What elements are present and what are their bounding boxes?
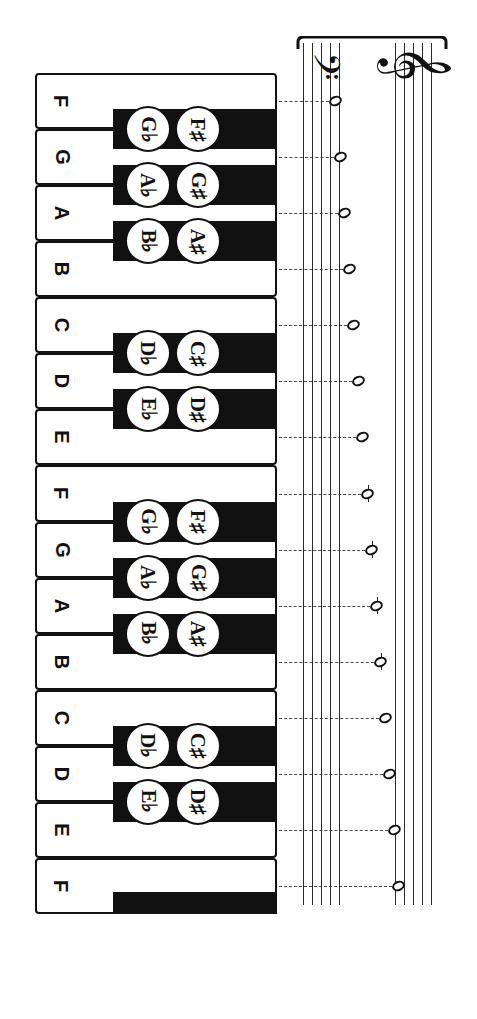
- white-key-label: A: [52, 206, 72, 220]
- enharmonic-bubble-sharp[interactable]: G♯: [175, 162, 221, 208]
- white-key-label: A: [52, 598, 72, 612]
- bass-clef-icon: 𝄢: [300, 52, 344, 96]
- treble-staff-line-2: [404, 43, 405, 905]
- whole-note-head: [364, 542, 380, 556]
- enharmonic-bubble-sharp[interactable]: F♯: [175, 499, 221, 545]
- note-a-bass: [338, 208, 351, 218]
- enharmonic-label: D♭: [137, 341, 158, 366]
- enharmonic-label: A♭: [137, 173, 158, 198]
- enharmonic-label: F♯: [187, 510, 208, 533]
- whole-note-head: [332, 150, 348, 164]
- enharmonic-bubble-flat[interactable]: E♭: [125, 779, 171, 825]
- whole-note-head: [377, 711, 393, 725]
- note-d-treble: [383, 769, 396, 779]
- enharmonic-bubble-flat[interactable]: B♭: [125, 611, 171, 657]
- enharmonic-label: F♯: [187, 117, 208, 140]
- whole-note-head: [350, 374, 366, 388]
- enharmonic-bubble-sharp[interactable]: A♯: [175, 218, 221, 264]
- treble-staff-line-5: [431, 43, 432, 905]
- white-key-label: G: [53, 149, 73, 165]
- whole-note-head: [373, 655, 389, 669]
- bass-staff-line-4: [330, 43, 331, 905]
- enharmonic-bubble-sharp[interactable]: F♯: [175, 106, 221, 152]
- bass-staff-line-3: [321, 43, 322, 905]
- enharmonic-label: A♭: [137, 565, 158, 590]
- note-b-treble: [374, 657, 387, 667]
- white-key-label: B: [52, 262, 72, 276]
- bass-staff-line-2: [312, 43, 313, 905]
- note-d-bass: [352, 376, 365, 386]
- enharmonic-bubble-sharp[interactable]: C♯: [175, 723, 221, 769]
- note-f-treble: [392, 881, 405, 891]
- enharmonic-label: C♯: [187, 733, 208, 759]
- white-key-label: C: [52, 318, 72, 332]
- grand-staff: [296, 43, 448, 905]
- enharmonic-label: D♭: [137, 733, 158, 758]
- whole-note-head: [337, 206, 353, 220]
- treble-staff-line-3: [413, 43, 414, 905]
- whole-note-head: [328, 94, 344, 108]
- whole-note-head: [391, 879, 407, 893]
- whole-note-head: [355, 430, 371, 444]
- white-key-label: F: [51, 880, 71, 892]
- white-key-label: B: [52, 654, 72, 668]
- enharmonic-label: G♯: [188, 564, 209, 591]
- enharmonic-label: C♯: [187, 340, 208, 366]
- bass-clef-glyph: 𝄢: [300, 52, 344, 96]
- treble-clef-glyph: 𝄞: [385, 45, 447, 105]
- enharmonic-label: G♭: [138, 508, 159, 534]
- whole-note-head: [341, 262, 357, 276]
- black-key-partial-bottom: [113, 892, 277, 914]
- enharmonic-label: E♭: [137, 397, 158, 421]
- treble-clef-icon: 𝄞: [386, 44, 446, 104]
- enharmonic-bubble-flat[interactable]: A♭: [125, 555, 171, 601]
- enharmonic-bubble-flat[interactable]: B♭: [125, 218, 171, 264]
- bass-staff-line-1: [303, 43, 304, 905]
- bass-staff-line-5: [339, 43, 340, 905]
- treble-staff-line-4: [422, 43, 423, 905]
- whole-note-head: [359, 486, 375, 500]
- enharmonic-label: D♯: [187, 397, 208, 423]
- white-key-label: E: [52, 823, 72, 836]
- white-key-label: D: [52, 374, 72, 388]
- enharmonic-bubble-flat[interactable]: G♭: [125, 499, 171, 545]
- note-c-treble: [379, 713, 392, 723]
- white-key-label: G: [53, 542, 73, 558]
- enharmonic-bubble-sharp[interactable]: A♯: [175, 611, 221, 657]
- note-f-treble: [361, 489, 374, 499]
- enharmonic-bubble-flat[interactable]: D♭: [125, 723, 171, 769]
- white-key-label: C: [52, 711, 72, 725]
- note-g-bass: [334, 152, 347, 162]
- enharmonic-bubble-sharp[interactable]: G♯: [175, 555, 221, 601]
- white-key-label: D: [52, 767, 72, 781]
- whole-note-head: [346, 318, 362, 332]
- enharmonic-bubble-flat[interactable]: D♭: [125, 330, 171, 376]
- piano-keyboard: FGABCDEFGABCDEFG♭F♯A♭G♯B♭A♯D♭C♯E♭D♯G♭F♯A…: [35, 73, 277, 914]
- enharmonic-label: G♯: [188, 172, 209, 199]
- whole-note-head: [382, 767, 398, 781]
- enharmonic-label: E♭: [137, 790, 158, 814]
- enharmonic-bubble-sharp[interactable]: D♯: [175, 779, 221, 825]
- whole-note-head: [386, 823, 402, 837]
- enharmonic-label: A♯: [187, 621, 208, 647]
- whole-note-head: [368, 599, 384, 613]
- note-b-bass: [343, 264, 356, 274]
- note-e-bass: [356, 432, 369, 442]
- white-key-label: E: [52, 431, 72, 444]
- note-a-treble: [370, 601, 383, 611]
- white-key-label: F: [51, 487, 71, 499]
- enharmonic-label: A♯: [187, 228, 208, 254]
- enharmonic-bubble-sharp[interactable]: C♯: [175, 330, 221, 376]
- keyboard-staff-diagram: FGABCDEFGABCDEFG♭F♯A♭G♯B♭A♯D♭C♯E♭D♯G♭F♯A…: [0, 0, 477, 1019]
- enharmonic-label: G♭: [138, 116, 159, 142]
- enharmonic-bubble-flat[interactable]: A♭: [125, 162, 171, 208]
- white-key-label: F: [51, 95, 71, 107]
- note-c-bass: [347, 320, 360, 330]
- note-e-treble: [388, 825, 401, 835]
- note-g-treble: [365, 545, 378, 555]
- enharmonic-label: D♯: [187, 789, 208, 815]
- enharmonic-bubble-flat[interactable]: G♭: [125, 106, 171, 152]
- enharmonic-label: B♭: [137, 622, 158, 646]
- note-f-bass: [329, 96, 342, 106]
- enharmonic-label: B♭: [137, 229, 158, 253]
